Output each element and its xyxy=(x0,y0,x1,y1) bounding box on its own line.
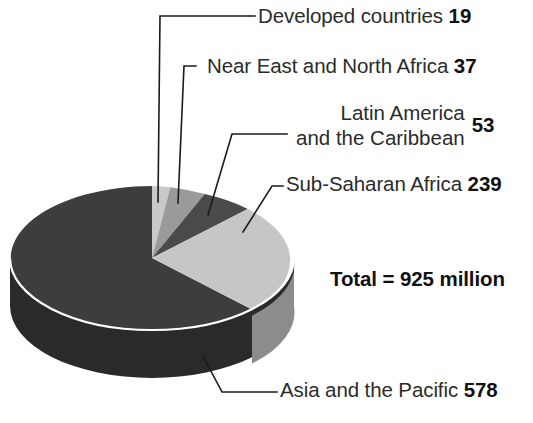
label-near-east-and-north-africa-text: Near East and North Africa xyxy=(207,54,448,77)
label-latin-america-text-block: Latin America and the Caribbean xyxy=(296,100,465,150)
label-near-east-and-north-africa-value: 37 xyxy=(454,54,477,77)
label-latin-america-and-the-caribbean: Latin America and the Caribbean 53 xyxy=(296,100,495,150)
label-developed-countries: Developed countries 19 xyxy=(258,4,471,28)
label-asia-and-the-pacific: Asia and the Pacific 578 xyxy=(280,378,498,402)
leader-line-developed-countries xyxy=(158,16,255,202)
total-label: Total = 925 million xyxy=(330,267,505,291)
pie-top-face xyxy=(10,186,294,330)
label-sub-saharan-africa-value: 239 xyxy=(468,172,502,195)
label-latin-america-value: 53 xyxy=(472,113,495,137)
label-latin-america-line-2: and the Caribbean xyxy=(296,125,465,150)
label-sub-saharan-africa-text: Sub-Saharan Africa xyxy=(286,172,462,195)
leader-line-near-east-and-north-africa xyxy=(178,66,196,203)
label-developed-countries-text: Developed countries xyxy=(258,4,443,27)
label-asia-and-the-pacific-value: 578 xyxy=(464,378,498,401)
label-near-east-and-north-africa: Near East and North Africa 37 xyxy=(207,54,476,78)
label-developed-countries-value: 19 xyxy=(449,4,472,27)
label-asia-and-the-pacific-text: Asia and the Pacific xyxy=(280,378,458,401)
label-sub-saharan-africa: Sub-Saharan Africa 239 xyxy=(286,172,502,196)
chart-canvas: Developed countries 19 Near East and Nor… xyxy=(0,0,533,423)
label-latin-america-line-1: Latin America xyxy=(296,100,465,125)
